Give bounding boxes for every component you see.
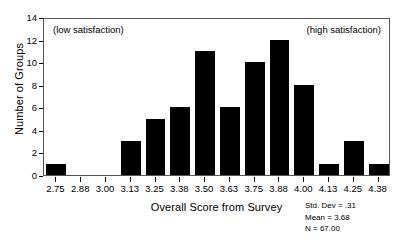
- y-tick-mark: [39, 176, 43, 177]
- histogram-bar: [319, 164, 339, 175]
- x-tick-mark: [155, 177, 156, 182]
- y-tick-label: 2: [17, 148, 37, 158]
- histogram-bar: [46, 164, 66, 175]
- histogram-bar: [146, 119, 166, 175]
- x-tick-mark: [254, 177, 255, 182]
- stat-n: N = 67.00: [305, 223, 356, 235]
- histogram-bar: [220, 107, 240, 175]
- y-tick-label: 10: [17, 58, 37, 68]
- x-tick-mark: [229, 177, 230, 182]
- y-tick-label: 14: [17, 13, 37, 23]
- y-tick-label: 4: [17, 126, 37, 136]
- histogram-bar: [344, 141, 364, 175]
- x-tick-mark: [278, 177, 279, 182]
- y-tick-label: 12: [17, 36, 37, 46]
- x-tick-mark: [303, 177, 304, 182]
- histogram-bar: [245, 62, 265, 175]
- histogram-bar: [121, 141, 141, 175]
- histogram-bar: [270, 40, 290, 175]
- x-tick-mark: [55, 177, 56, 182]
- x-tick-label: 4.38: [358, 183, 398, 194]
- x-tick-mark: [328, 177, 329, 182]
- x-tick-mark: [378, 177, 379, 182]
- histogram-bar: [294, 85, 314, 175]
- annotation-low-satisfaction: (low satisfaction): [53, 24, 124, 35]
- y-tick-label: 8: [17, 81, 37, 91]
- plot-area: [44, 19, 389, 175]
- plot-frame: (low satisfaction) (high satisfaction): [43, 18, 390, 176]
- histogram-bar: [170, 107, 190, 175]
- histogram-bar: [195, 51, 215, 175]
- x-tick-mark: [105, 177, 106, 182]
- y-tick-label: 0: [17, 171, 37, 181]
- y-tick-label: 6: [17, 103, 37, 113]
- stat-mean: Mean = 3.68: [305, 212, 356, 224]
- x-tick-mark: [130, 177, 131, 182]
- x-tick-mark: [179, 177, 180, 182]
- stat-std-dev: Std. Dev = .31: [305, 200, 356, 212]
- annotation-high-satisfaction: (high satisfaction): [307, 24, 381, 35]
- histogram-figure: Number of Groups 02468101214 (low satisf…: [0, 0, 408, 246]
- histogram-bar: [369, 164, 389, 175]
- x-tick-mark: [80, 177, 81, 182]
- x-tick-mark: [353, 177, 354, 182]
- x-tick-mark: [204, 177, 205, 182]
- statistics-block: Std. Dev = .31 Mean = 3.68 N = 67.00: [305, 200, 356, 235]
